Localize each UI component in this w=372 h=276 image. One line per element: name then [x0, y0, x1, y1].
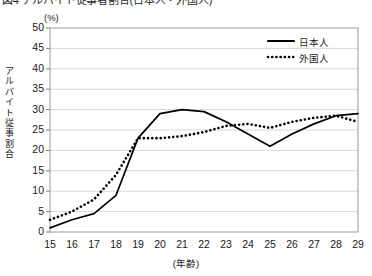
- legend-label-foreign: 外国人: [299, 51, 329, 65]
- series-line-japanese: [50, 110, 358, 228]
- legend-marks: [268, 41, 294, 57]
- series-lines: [50, 110, 358, 228]
- legend-label-japanese: 日本人: [299, 35, 329, 49]
- chart-figure: 図4 アルバイト従事者割合(日本人・外国人) (%) アルバイト従事割合 (年齢…: [0, 0, 372, 276]
- series-line-foreign: [50, 116, 358, 220]
